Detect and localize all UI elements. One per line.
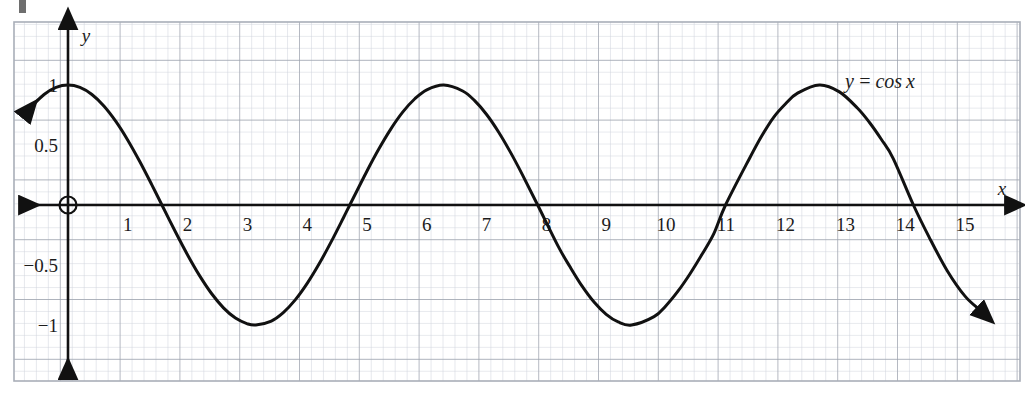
x-tick-5: 5 (362, 214, 372, 235)
x-tick-10: 10 (657, 214, 676, 235)
y-tick-0point5: 0.5 (34, 135, 58, 156)
y-tick-neg1: −1 (38, 315, 58, 336)
x-tick-9: 9 (601, 214, 611, 235)
x-tick-12: 12 (776, 214, 795, 235)
x-tick-14: 14 (896, 214, 916, 235)
x-tick-15: 15 (956, 214, 975, 235)
x-axis-label: x (997, 178, 1007, 199)
y-tick-1: 1 (49, 75, 59, 96)
y-axis-label: y (80, 25, 91, 46)
x-tick-2: 2 (183, 214, 193, 235)
cosine-graph-figure: y x 1 2 3 4 5 6 7 8 9 10 11 12 13 14 15 … (0, 0, 1025, 393)
x-tick-7: 7 (482, 214, 492, 235)
x-tick-6: 6 (422, 214, 432, 235)
x-tick-4: 4 (302, 214, 312, 235)
curve-equation-annotation: y = cos x (843, 70, 915, 93)
x-tick-1: 1 (123, 214, 133, 235)
page-edge-mark (19, 0, 26, 13)
x-tick-3: 3 (243, 214, 253, 235)
figure-page: y x 1 2 3 4 5 6 7 8 9 10 11 12 13 14 15 … (0, 0, 1025, 393)
x-tick-13: 13 (836, 214, 855, 235)
y-tick-neg0point5: −0.5 (24, 255, 58, 276)
